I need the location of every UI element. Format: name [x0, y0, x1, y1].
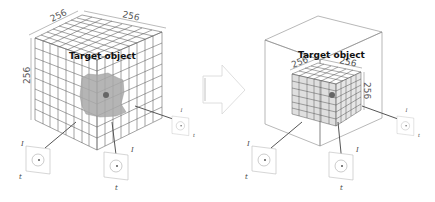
left-dim-height: 256 — [22, 67, 32, 84]
svg-text:I: I — [130, 146, 134, 154]
right-panel: 256 256 256 Target object I t I t I t — [245, 16, 420, 192]
svg-text:I: I — [246, 140, 250, 148]
svg-text:I: I — [404, 107, 408, 113]
right-sensor-bottom: I t — [329, 146, 359, 192]
svg-text:I: I — [355, 146, 359, 154]
svg-text:t: t — [115, 184, 118, 192]
svg-text:I: I — [179, 107, 183, 113]
right-sensor-right: I t — [397, 107, 420, 138]
right-title: Target object — [298, 50, 366, 60]
svg-text:t: t — [340, 184, 343, 192]
svg-text:t: t — [193, 132, 195, 138]
right-dim-height: 256 — [362, 82, 372, 99]
right-voxel-cube — [292, 63, 361, 126]
right-center-dot — [329, 92, 335, 98]
left-sensor-bottom: I t — [104, 146, 134, 192]
diagram-canvas: 256 256 256 Target object I t I t I t — [0, 0, 435, 202]
left-panel: 256 256 256 Target object I t I t I t — [19, 7, 195, 192]
left-dim-top-right: 256 — [122, 9, 141, 23]
left-dim-top-left: 256 — [48, 7, 68, 24]
svg-text:t: t — [418, 132, 420, 138]
left-center-dot — [103, 92, 109, 98]
svg-text:t: t — [19, 173, 22, 181]
transform-arrow-icon — [203, 65, 245, 114]
right-sensor-left: I t — [245, 140, 276, 181]
left-sensor-right: I t — [172, 107, 195, 138]
svg-text:I: I — [20, 140, 24, 148]
svg-text:t: t — [245, 173, 248, 181]
left-sensor-left: I t — [19, 140, 50, 181]
left-title: Target object — [69, 51, 137, 61]
